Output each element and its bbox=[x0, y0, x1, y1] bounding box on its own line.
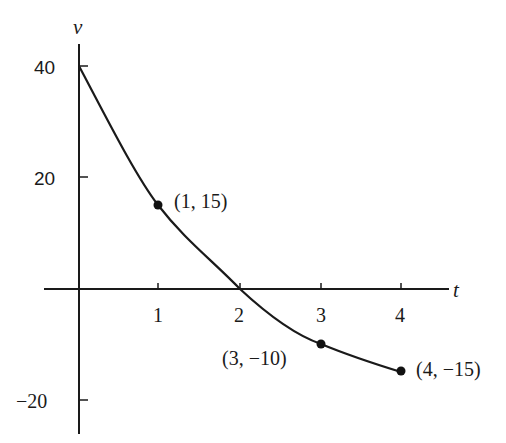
point-label-4-neg15: (4, −15) bbox=[416, 358, 481, 381]
axes bbox=[44, 44, 449, 434]
x-tick-label-3: 3 bbox=[316, 304, 326, 326]
y-tick-label-40: 40 bbox=[34, 57, 55, 78]
point-4-neg15 bbox=[397, 367, 406, 376]
point-label-1-15: (1, 15) bbox=[174, 190, 227, 213]
velocity-chart: 40 20 −20 1 2 3 4 v t (1, 15) (3, −10) (… bbox=[0, 0, 506, 443]
point-label-3-neg10: (3, −10) bbox=[222, 347, 287, 370]
y-tick-label-neg20: −20 bbox=[16, 390, 47, 412]
x-tick-label-2: 2 bbox=[234, 304, 244, 326]
x-axis-label: t bbox=[453, 278, 460, 302]
x-tick-label-1: 1 bbox=[153, 304, 163, 326]
y-tick-label-20: 20 bbox=[34, 168, 55, 189]
velocity-curve bbox=[79, 66, 401, 372]
y-ticks bbox=[79, 66, 88, 400]
x-tick-label-4: 4 bbox=[395, 304, 405, 326]
point-1-15 bbox=[154, 201, 163, 210]
point-3-neg10 bbox=[317, 340, 326, 349]
y-axis-label: v bbox=[73, 15, 83, 39]
